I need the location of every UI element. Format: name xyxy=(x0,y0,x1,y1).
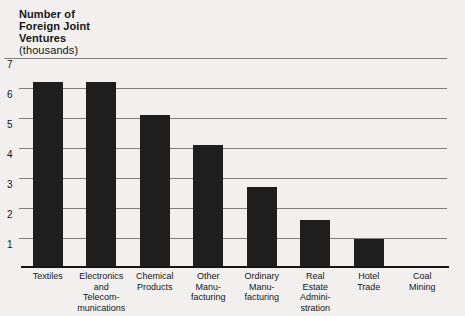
x-axis-labels: TextilesElectronicsandTelecom-munication… xyxy=(21,271,449,313)
category-label-line: Textiles xyxy=(21,271,75,282)
bar-slot xyxy=(289,58,343,268)
category-label-line: facturing xyxy=(182,292,236,303)
category-label-line: Manu- xyxy=(182,282,236,293)
x-axis-line xyxy=(21,266,449,268)
category-label: HotelTrade xyxy=(342,271,396,313)
category-label-line: Products xyxy=(128,282,182,293)
category-label: OtherManu-facturing xyxy=(182,271,236,313)
bar-slot xyxy=(128,58,182,268)
category-label-line: Admini- xyxy=(289,292,343,303)
y-tick-label: 1 xyxy=(7,240,19,250)
category-label-line: Telecom- xyxy=(75,292,129,303)
bar-chart-figure: Number of Foreign Joint Ventures (thousa… xyxy=(0,0,465,316)
category-label-line: stration xyxy=(289,303,343,314)
category-label: Textiles xyxy=(21,271,75,313)
category-label-line: Hotel xyxy=(342,271,396,282)
bar-chemical-products xyxy=(140,115,170,268)
bar-slot xyxy=(396,58,450,268)
y-tick-label: 7 xyxy=(7,60,19,70)
category-label: CoalMining xyxy=(396,271,450,313)
bar-slot xyxy=(21,58,75,268)
category-label-line: facturing xyxy=(235,292,289,303)
category-label-line: Trade xyxy=(342,282,396,293)
category-label-line: and xyxy=(75,282,129,293)
y-tick-label: 3 xyxy=(7,180,19,190)
bar-slot xyxy=(75,58,129,268)
chart-title: Number of Foreign Joint Ventures (thousa… xyxy=(19,8,90,56)
category-label-line: munications xyxy=(75,303,129,314)
chart-title-line-1: Number of xyxy=(19,8,90,20)
category-label: ElectronicsandTelecom-munications xyxy=(75,271,129,313)
chart-subtitle: (thousands) xyxy=(19,44,90,56)
category-label: ChemicalProducts xyxy=(128,271,182,313)
y-tick-label: 2 xyxy=(7,210,19,220)
category-label-line: Coal xyxy=(396,271,450,282)
category-label: RealEstateAdmini-stration xyxy=(289,271,343,313)
y-tick-label: 6 xyxy=(7,90,19,100)
y-tick-label: 4 xyxy=(7,150,19,160)
category-label-line: Other xyxy=(182,271,236,282)
bar-slot xyxy=(235,58,289,268)
chart-title-line-2: Foreign Joint xyxy=(19,20,90,32)
bar-textiles xyxy=(33,82,63,268)
y-tick-label: 5 xyxy=(7,120,19,130)
bar-slot xyxy=(342,58,396,268)
bar-hotel-trade xyxy=(354,239,384,268)
category-label-line: Ordinary xyxy=(235,271,289,282)
bar-electronics-and-telecommunications xyxy=(86,82,116,268)
category-label-line: Real xyxy=(289,271,343,282)
category-label-line: Chemical xyxy=(128,271,182,282)
plot-area xyxy=(21,58,449,268)
bar-slot xyxy=(182,58,236,268)
chart-title-line-3: Ventures xyxy=(19,32,90,44)
category-label-line: Mining xyxy=(396,282,450,293)
category-label-line: Electronics xyxy=(75,271,129,282)
category-label-line: Estate xyxy=(289,282,343,293)
category-label-line: Manu- xyxy=(235,282,289,293)
bar-real-estate-administration xyxy=(300,220,330,268)
bar-ordinary-manufacturing xyxy=(247,187,277,268)
category-label: OrdinaryManu-facturing xyxy=(235,271,289,313)
bar-other-manufacturing xyxy=(193,145,223,268)
